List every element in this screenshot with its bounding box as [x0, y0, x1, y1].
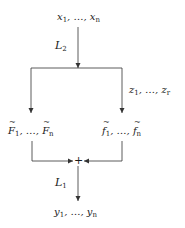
block-diagram: x1, …, xn L2 z1, …, zr F1, …, Fn f1, …, …: [0, 0, 185, 228]
node-sum: +: [74, 155, 83, 166]
left-var: F: [8, 126, 15, 136]
edge-right-to-sum: [84, 141, 122, 161]
node-output: y1, …, yn: [54, 207, 97, 219]
left-start-index: 1: [15, 130, 19, 138]
left-end-index: n: [49, 130, 54, 138]
node-left-branch: F1, …, Fn: [8, 126, 54, 138]
right-var-end: f: [133, 126, 137, 136]
l2-index: 2: [62, 45, 66, 53]
right-var: f: [102, 126, 106, 136]
latent-start-index: 1: [134, 89, 138, 97]
diagram-edges: [0, 0, 185, 228]
output-end-index: n: [93, 211, 98, 219]
edge-label-l1: L1: [55, 177, 67, 190]
node-right-branch: f1, …, fn: [102, 126, 141, 138]
right-end-index: n: [137, 130, 142, 138]
latent-end-index: r: [167, 89, 170, 97]
input-start-index: 1: [63, 16, 67, 24]
edge-left-to-sum: [32, 141, 73, 161]
node-latent: z1, …, zr: [129, 85, 170, 97]
output-start-index: 1: [60, 211, 64, 219]
l1-index: 1: [62, 182, 66, 190]
right-start-index: 1: [106, 130, 110, 138]
edge-label-l2: L2: [55, 40, 67, 53]
input-end-index: n: [95, 16, 100, 24]
node-input: x1, …, xn: [57, 12, 100, 24]
left-var-end: F: [42, 126, 49, 136]
